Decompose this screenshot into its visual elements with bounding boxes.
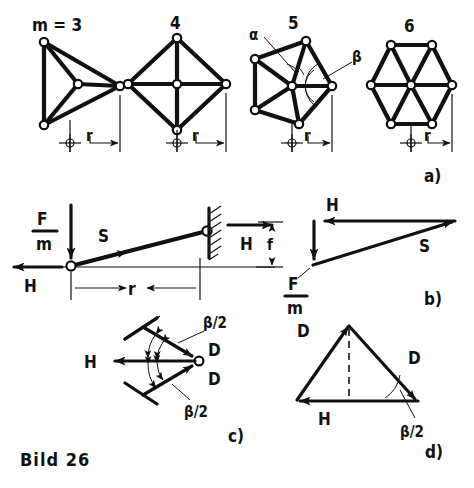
- load-numerator: F: [37, 209, 47, 229]
- dimension-f-label: f: [267, 236, 273, 254]
- hub-half-angle-upper-label: β/2: [203, 314, 227, 332]
- axial-force-label: S: [98, 226, 109, 246]
- angle-beta-label: β: [352, 48, 362, 66]
- panel-label-b: b): [424, 289, 442, 309]
- panel-label-a: a): [424, 166, 441, 186]
- force-triangle-f-numerator: F: [288, 274, 298, 294]
- polygon-m3: [40, 38, 124, 129]
- hub-spoke-force-lower-label: D: [208, 369, 221, 389]
- figure-caption: Bild 26: [20, 449, 90, 470]
- hub-force-balance: H β/2 β/2 D D: [84, 314, 227, 421]
- hub-half-angle-lower-label: β/2: [184, 403, 208, 421]
- force-triangle-m-denominator: m: [287, 298, 303, 318]
- figure-canvas: m = 3 r 4 r: [0, 0, 474, 488]
- dimension-r-label-m6: r: [424, 127, 431, 145]
- hub-spoke-force-upper-label: D: [208, 340, 221, 360]
- figure-bild-26: m = 3 r 4 r: [0, 0, 474, 488]
- dimension-r-label-m3: r: [86, 127, 93, 145]
- polygon-m6-title: 6: [404, 16, 415, 36]
- hub-resultant-label: H: [84, 352, 97, 372]
- closed-force-triangle: D D H β/2: [297, 321, 424, 441]
- cantilever-beam-free-body: F m S H H f r: [14, 205, 283, 300]
- triangle-d-left-label: D: [297, 321, 310, 341]
- panel-label-c: c): [228, 426, 244, 446]
- polygon-m4-title: 4: [170, 13, 181, 33]
- reaction-right-label: H: [240, 234, 253, 254]
- dimension-f: f: [256, 222, 283, 267]
- force-triangle-fraction: F m: [285, 274, 307, 318]
- dimension-r-label-m5: r: [304, 127, 311, 145]
- triangle-half-angle-label: β/2: [400, 423, 424, 441]
- dimension-r-beam: r: [71, 258, 200, 300]
- polygon-m4: [124, 34, 230, 134]
- polygon-m3-title: m = 3: [32, 15, 82, 35]
- panel-label-d: d): [425, 442, 443, 462]
- load-label-fraction: F m: [33, 209, 57, 254]
- triangle-h-label: H: [318, 409, 331, 429]
- dimension-r-label-m4: r: [192, 127, 199, 145]
- force-triangle-s-label: S: [419, 236, 430, 256]
- load-denominator: m: [36, 234, 52, 254]
- polygon-m5-title: 5: [288, 13, 299, 33]
- polygon-m5: [251, 37, 336, 128]
- triangle-d-right-label: D: [408, 348, 421, 368]
- dimension-r-beam-label: r: [128, 279, 136, 299]
- polygon-m6: [367, 41, 456, 128]
- reaction-left-label: H: [24, 276, 37, 296]
- force-triangle-h-label: H: [326, 195, 339, 215]
- dimension-r-m5: r: [281, 95, 332, 152]
- angle-alpha-label: α: [249, 26, 258, 44]
